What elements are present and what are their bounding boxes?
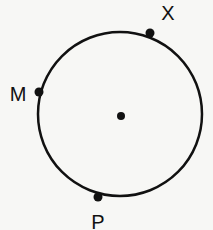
point-x-dot bbox=[146, 29, 155, 38]
point-x-label: X bbox=[161, 2, 174, 24]
point-m-label: M bbox=[10, 83, 27, 105]
point-m-dot bbox=[35, 88, 44, 97]
center-point bbox=[117, 112, 125, 120]
point-p-dot bbox=[94, 193, 103, 202]
circle-diagram: X M P bbox=[0, 0, 213, 230]
point-p-label: P bbox=[91, 211, 104, 230]
